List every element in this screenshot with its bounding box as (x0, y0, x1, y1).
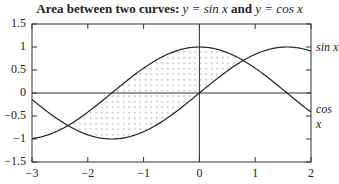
x-tick-label: 0 (184, 166, 214, 181)
sin-label-text: sin x (316, 40, 338, 54)
x-tick-label: 2 (296, 166, 326, 181)
x-tick-label: −1 (129, 166, 159, 181)
x-tick-label: −2 (73, 166, 103, 181)
x-tick-label: −3 (17, 166, 47, 181)
cos-label: cos x (316, 102, 339, 132)
x-tick-label: 1 (240, 166, 270, 181)
y-tick-label: 1.5 (0, 16, 26, 31)
plot-area (0, 0, 339, 184)
y-tick-label: 0.5 (0, 62, 26, 77)
y-tick-label: 1 (0, 39, 26, 54)
y-tick-label: 0 (0, 85, 26, 100)
y-tick-label: −0.5 (0, 108, 26, 123)
y-tick-label: −1 (0, 131, 26, 146)
sin-label: sin x (316, 40, 338, 55)
cos-label-text: cos x (316, 102, 332, 131)
